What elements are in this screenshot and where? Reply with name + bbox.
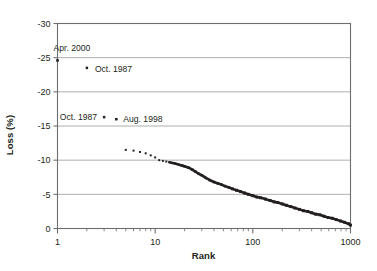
svg-text:Apr. 2000: Apr. 2000 bbox=[54, 43, 91, 53]
svg-text:Oct. 1987: Oct. 1987 bbox=[60, 112, 97, 122]
svg-text:-25: -25 bbox=[37, 53, 50, 63]
svg-text:-30: -30 bbox=[37, 19, 50, 29]
svg-text:1000: 1000 bbox=[340, 237, 360, 247]
data-point-series bbox=[57, 59, 352, 226]
svg-text:Aug. 1998: Aug. 1998 bbox=[123, 114, 162, 124]
x-axis-ticks: 1101001000 bbox=[55, 229, 361, 247]
svg-text:-5: -5 bbox=[42, 190, 50, 200]
svg-text:0: 0 bbox=[45, 224, 50, 234]
chart-figure: -30-25-20-15-10-50 1101001000 Apr. 2000O… bbox=[0, 0, 377, 271]
outlier-annotations: Apr. 2000Oct. 1987Oct. 1987Aug. 1998 bbox=[54, 43, 163, 124]
svg-text:1: 1 bbox=[55, 237, 60, 247]
svg-text:-20: -20 bbox=[37, 87, 50, 97]
loss-vs-rank-scatter-plot: -30-25-20-15-10-50 1101001000 Apr. 2000O… bbox=[0, 0, 377, 271]
gridlines bbox=[58, 58, 351, 195]
y-axis-title: Loss (%) bbox=[4, 100, 15, 170]
svg-text:Oct. 1987: Oct. 1987 bbox=[95, 64, 132, 74]
svg-text:-10: -10 bbox=[37, 155, 50, 165]
x-axis-title: Rank bbox=[57, 250, 350, 261]
svg-text:10: 10 bbox=[150, 237, 160, 247]
svg-text:-15: -15 bbox=[37, 121, 50, 131]
svg-text:100: 100 bbox=[245, 237, 260, 247]
